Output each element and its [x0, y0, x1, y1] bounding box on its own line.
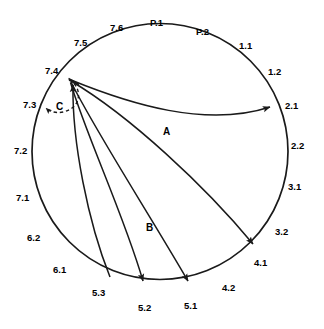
sector-label-2-2: 2.2 — [291, 141, 304, 151]
circular-flow-diagram: P.1 P.2 7.6 7.5 7.4 7.3 7.2 7.1 6.2 6.1 … — [0, 0, 324, 329]
sector-label-p-1: P.1 — [150, 18, 163, 28]
sector-label-7-3: 7.3 — [23, 100, 36, 110]
sector-label-7-4: 7.4 — [45, 66, 58, 76]
sector-label-1-1: 1.1 — [239, 41, 252, 51]
sector-label-p-2: P.2 — [196, 27, 209, 37]
flow-to-4-1-curve — [71, 81, 253, 244]
flow-b-curve — [71, 83, 144, 282]
sector-label-2-1: 2.1 — [285, 101, 298, 111]
sector-label-5-1: 5.1 — [184, 301, 197, 311]
sector-label-6-2: 6.2 — [27, 233, 40, 243]
boundary-circle — [32, 24, 288, 280]
sector-label-5-3: 5.3 — [92, 288, 105, 298]
sector-label-1-2: 1.2 — [268, 67, 281, 77]
sector-label-3-2: 3.2 — [275, 227, 288, 237]
flow-a-curve — [71, 80, 270, 115]
flow-label-a: A — [163, 127, 170, 137]
sector-label-7-6: 7.6 — [110, 23, 123, 33]
sector-label-4-2: 4.2 — [222, 283, 235, 293]
sector-label-7-2: 7.2 — [14, 146, 27, 156]
sector-label-5-2: 5.2 — [138, 303, 151, 313]
sector-label-4-1: 4.1 — [254, 258, 267, 268]
sector-label-7-5: 7.5 — [74, 38, 87, 48]
flow-label-b: B — [146, 223, 153, 233]
sector-label-6-1: 6.1 — [53, 265, 66, 275]
flow-label-c: C — [56, 102, 63, 112]
flow-to-5-1-curve — [71, 82, 188, 281]
sector-label-7-1: 7.1 — [16, 193, 29, 203]
sector-label-3-1: 3.1 — [288, 182, 301, 192]
diagram-canvas — [0, 0, 324, 329]
flow-from-5-3-curve — [73, 85, 110, 277]
